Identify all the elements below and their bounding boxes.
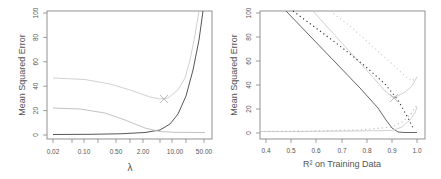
- right-plot-frame: [260, 11, 425, 139]
- x-tick-label: 1.0: [412, 147, 421, 154]
- figure: 0 20 40 60 80 100 Mean Squared Error 0.0…: [0, 0, 441, 179]
- left-series-variance: [53, 108, 205, 133]
- y-tick-label: 80: [32, 33, 39, 41]
- right-y-tick-labels: 0 20 40 60 80 100: [245, 7, 252, 135]
- y-tick-label: 20: [32, 107, 39, 115]
- x-tick-label: 0.02: [47, 148, 60, 155]
- x-tick-label: 0.9: [387, 147, 396, 154]
- right-x-axis-label: R² on Training Data: [303, 159, 381, 169]
- x-tick-label: 0.4: [261, 147, 270, 154]
- right-y-ticks: [256, 13, 260, 133]
- right-series-test-mse-solid: [313, 11, 417, 97]
- x-tick-label: 0.10: [78, 148, 91, 155]
- left-series-test-mse: [53, 11, 199, 99]
- right-x-ticks: [266, 139, 417, 143]
- right-x-tick-labels: 0.4 0.5 0.6 0.7 0.8 0.9 1.0: [261, 147, 421, 154]
- x-tick-label: 50.00: [196, 148, 213, 155]
- left-x-ticks: [53, 139, 204, 143]
- left-plot-frame: [47, 11, 212, 139]
- right-series-squared-bias-solid: [286, 11, 417, 133]
- left-y-ticks: [43, 13, 47, 135]
- y-tick-label: 20: [245, 105, 252, 113]
- y-tick-label: 100: [32, 7, 39, 18]
- x-tick-label: 10.00: [167, 148, 184, 155]
- x-tick-label: 0.50: [110, 148, 123, 155]
- left-y-tick-labels: 0 20 40 60 80 100: [32, 7, 39, 137]
- left-series-squared-bias: [53, 11, 203, 135]
- y-tick-label: 60: [245, 57, 252, 65]
- y-tick-label: 100: [245, 7, 252, 18]
- left-panel: 0 20 40 60 80 100 Mean Squared Error 0.0…: [17, 7, 213, 173]
- left-x-axis-label: λ: [128, 162, 133, 173]
- x-tick-label: 0.7: [337, 147, 346, 154]
- y-tick-label: 40: [32, 82, 39, 90]
- x-tick-label: 0.6: [311, 147, 320, 154]
- left-x-tick-labels: 0.02 0.10 0.50 2.00 10.00 50.00: [47, 148, 213, 155]
- y-tick-label: 40: [245, 81, 252, 89]
- x-tick-label: 2.00: [137, 148, 150, 155]
- left-y-axis-label: Mean Squared Error: [17, 34, 27, 116]
- y-tick-label: 0: [32, 133, 39, 137]
- x-tick-label: 0.5: [286, 147, 295, 154]
- y-tick-label: 0: [245, 131, 252, 135]
- right-series-variance-dotted: [260, 105, 417, 132]
- y-tick-label: 60: [32, 58, 39, 66]
- y-tick-label: 80: [245, 33, 252, 41]
- right-panel: 0 20 40 60 80 100 Mean Squared Error 0.4…: [229, 7, 425, 169]
- right-series-variance-solid: [260, 107, 417, 132]
- min-test-mse-cross-icon: [390, 94, 398, 102]
- right-y-axis-label: Mean Squared Error: [229, 34, 239, 116]
- x-tick-label: 0.8: [362, 147, 371, 154]
